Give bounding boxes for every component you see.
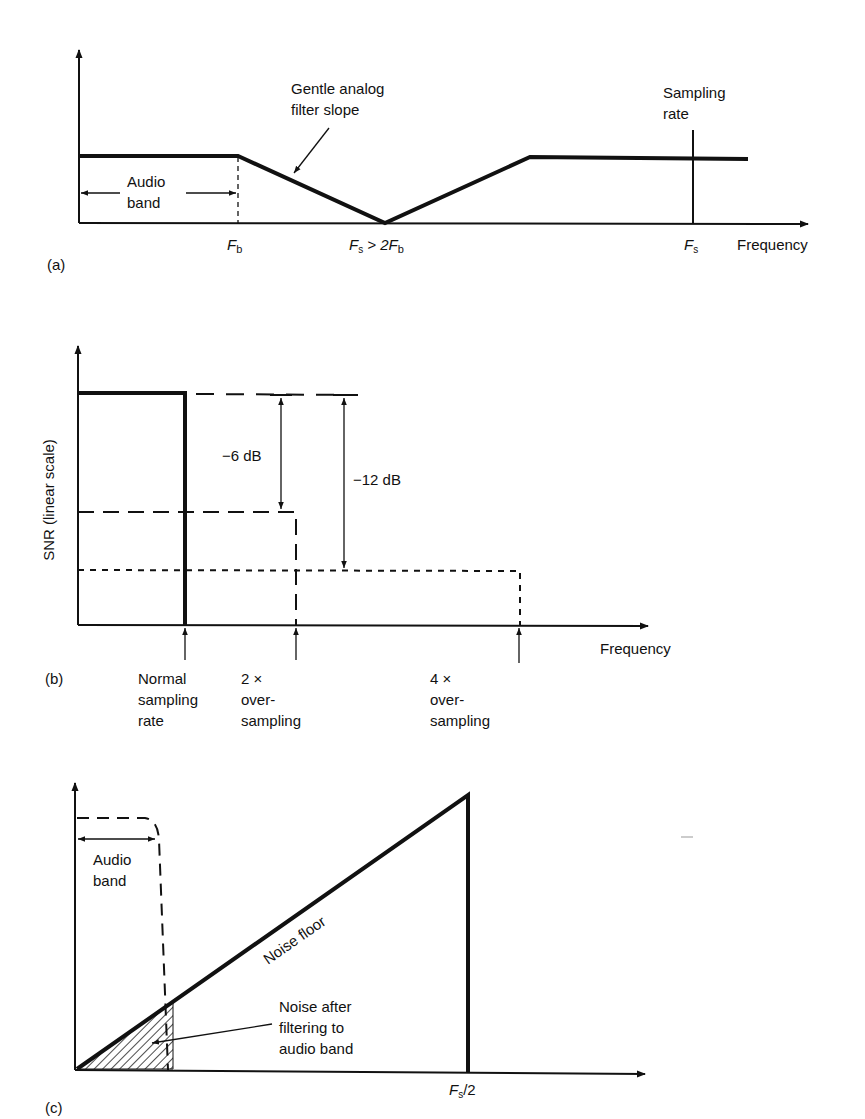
panel-a-audio-band-label-2: band — [127, 194, 160, 211]
panel-c-filtered-label-3: audio band — [279, 1040, 353, 1057]
panel-a-filter-slope-label-1: Gentle analog — [291, 80, 384, 97]
panel-a-tag: (a) — [47, 256, 65, 273]
panel-b: SNR (linear scale) −6 dB −12 dB Normal s… — [40, 346, 671, 729]
panel-b-normal-rate-level — [78, 393, 185, 625]
panel-b-y-axis-label: SNR (linear scale) — [40, 439, 57, 561]
panel-b-x-axis — [78, 625, 648, 626]
panel-b-marker-4x-label: 4 × over- sampling — [430, 670, 490, 729]
svg-text:rate: rate — [138, 712, 164, 729]
panel-a: Audio band Gentle analog filter slope Sa… — [47, 50, 808, 273]
panel-a-tick-fs: Fs — [684, 236, 698, 255]
panel-b-x-axis-label: Frequency — [600, 640, 671, 657]
panel-a-audio-band-label-1: Audio — [127, 173, 165, 190]
panel-c-filtered-label-2: filtering to — [279, 1019, 344, 1036]
panel-a-x-axis — [79, 223, 808, 224]
panel-c-filtered-label-1: Noise after — [279, 998, 352, 1015]
panel-b-4x-oversampling-level — [78, 570, 520, 625]
panel-a-filter-response — [79, 156, 748, 223]
panel-a-tick-fs-gt-2fb: Fs > 2Fb — [349, 236, 404, 255]
svg-text:over-: over- — [430, 691, 464, 708]
panel-b-12db-label: −12 dB — [353, 471, 401, 488]
panel-c-tick-fs-half: Fs/2 — [449, 1081, 476, 1100]
svg-text:sampling: sampling — [138, 691, 198, 708]
figure-canvas: Audio band Gentle analog filter slope Sa… — [0, 0, 865, 1119]
panel-a-sampling-rate-label-2: rate — [663, 105, 689, 122]
panel-b-marker-normal-label: Normal sampling rate — [138, 670, 198, 729]
panel-c: Audio band Noise floor Noise after filte… — [45, 783, 645, 1116]
panel-a-sampling-rate-label-1: Sampling — [663, 84, 726, 101]
panel-c-x-axis — [75, 1070, 645, 1074]
panel-a-x-axis-label: Frequency — [737, 236, 808, 253]
panel-b-6db-label: −6 dB — [222, 447, 262, 464]
panel-c-tag: (c) — [45, 1099, 63, 1116]
svg-text:4 ×: 4 × — [430, 670, 451, 687]
svg-text:sampling: sampling — [430, 712, 490, 729]
svg-text:2 ×: 2 × — [241, 670, 262, 687]
panel-a-filter-slope-label-2: filter slope — [291, 101, 359, 118]
panel-b-tag: (b) — [45, 670, 63, 687]
svg-text:over-: over- — [241, 691, 275, 708]
panel-c-audio-band-label-1: Audio — [93, 851, 131, 868]
svg-text:Normal: Normal — [138, 670, 186, 687]
panel-c-noise-floor-label: Noise floor — [260, 912, 328, 967]
panel-c-audio-band-label-2: band — [93, 872, 126, 889]
panel-b-marker-2x-label: 2 × over- sampling — [241, 670, 301, 729]
panel-a-tick-fb: Fb — [227, 236, 242, 255]
svg-text:sampling: sampling — [241, 712, 301, 729]
panel-a-filter-slope-pointer — [294, 128, 329, 173]
